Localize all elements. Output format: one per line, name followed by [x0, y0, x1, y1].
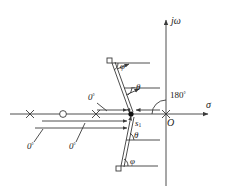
angle-label-phi-lower: φ: [130, 157, 135, 166]
test-point-dot: [128, 111, 133, 116]
angle-label-zero-lower-left: 0°: [27, 142, 34, 151]
angle-label-180: 180°: [170, 91, 186, 100]
figure-canvas: jω σ O s1 180° −θ θ φ φ 0° 0° 0°: [0, 0, 226, 194]
angle-label-phi-upper: φ: [120, 62, 125, 71]
angle-label-theta: θ: [134, 131, 138, 140]
angle-label-minus-theta: −θ: [130, 83, 141, 92]
zero-glyph-lower: [116, 166, 121, 171]
root-locus-vector-graphic: [0, 0, 226, 194]
angle-label-zero-upper: 0°: [88, 93, 95, 102]
angle-180-degree-sign: °: [184, 91, 186, 97]
origin-label: O: [167, 118, 174, 128]
test-point-label-sub: 1: [139, 122, 142, 128]
real-axis-label: σ: [206, 100, 211, 110]
angle-180-value: 180: [170, 90, 184, 100]
imaginary-axis-label: jω: [171, 16, 181, 26]
leader-line-zero-lower-mid: [76, 123, 85, 142]
zero-glyph-upper: [107, 58, 112, 63]
leader-line-zero-lower-left: [34, 129, 43, 142]
angle-label-zero-lower-mid: 0°: [69, 142, 76, 151]
test-point-label: s1: [135, 119, 141, 129]
zero-glyph-1: [60, 111, 67, 118]
